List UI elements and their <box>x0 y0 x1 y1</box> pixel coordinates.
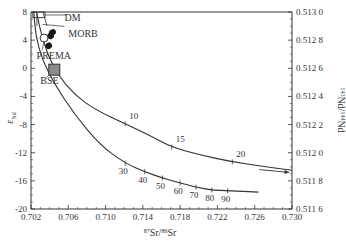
x-tick-label: 0.726 <box>245 212 266 222</box>
y2-tick-label: 0.513 0 <box>296 7 324 17</box>
isotope-mixing-chart: 0.7020.7060.7100.7140.7180.7220.7260.730… <box>0 0 346 242</box>
y-tick-label: -4 <box>20 91 28 101</box>
y2-tick-label: 0.512 6 <box>296 63 324 73</box>
curve-percent-label: 50 <box>156 181 166 191</box>
curve-percent-label: 10 <box>129 111 139 121</box>
y2-tick-label: 0.512 2 <box>296 120 323 130</box>
x-tick-label: 0.722 <box>207 212 227 222</box>
reservoir-label-bse: BSE <box>40 75 58 86</box>
reservoir-label-dm: DM <box>65 12 81 23</box>
x-tick-label: 0.718 <box>170 212 191 222</box>
y2-tick-label: 0.512 4 <box>296 91 324 101</box>
y2-tick-label: 0.512 8 <box>296 35 324 45</box>
y-tick-label: 8 <box>23 7 28 17</box>
x-axis-ticks: 0.7020.7060.7100.7140.7180.7220.7260.730 <box>21 205 303 222</box>
y-tick-label: -20 <box>15 204 27 214</box>
reservoir-label-morb: MORB <box>68 28 98 39</box>
y2-tick-label: 0.512 0 <box>296 148 324 158</box>
y2-tick-label: 0.511 8 <box>296 176 323 186</box>
y2-axis-title: 143Nd/144Nd <box>336 87 346 132</box>
y2-tick-label: 0.511 6 <box>296 204 323 214</box>
y-axis-title: εNd <box>4 112 17 123</box>
prema-leader-line <box>42 42 44 50</box>
plot-frame <box>31 12 292 209</box>
x-axis-title: 87Sr/86Sr <box>144 227 177 238</box>
x-tick-label: 0.714 <box>133 212 154 222</box>
curve-percent-label: 20 <box>236 149 246 159</box>
mixing-curves: 10152030405060708090 <box>34 12 292 204</box>
x-tick-label: 0.706 <box>58 212 79 222</box>
morb-leader-line <box>42 24 64 26</box>
curve-percent-label: 40 <box>138 175 148 185</box>
curve-percent-label: 15 <box>176 134 186 144</box>
y2-axis-ticks: 0.513 00.512 80.512 60.512 40.512 20.512… <box>288 7 324 214</box>
reservoir-label-prema: PREMA <box>37 50 72 61</box>
bse-square-marker <box>49 64 60 75</box>
y-tick-label: -12 <box>15 148 27 158</box>
prema-circle-marker <box>40 34 48 42</box>
curve-percent-label: 70 <box>189 190 199 200</box>
curve-percent-label: 90 <box>221 194 231 204</box>
curve-percent-label: 30 <box>119 166 129 176</box>
y-tick-label: 4 <box>23 35 28 45</box>
curve-percent-label: 60 <box>174 186 184 196</box>
y-tick-label: -8 <box>20 120 28 130</box>
y-axis-ticks: 840-4-8-12-16-20 <box>15 7 35 214</box>
y-tick-label: -16 <box>15 176 27 186</box>
curve-percent-label: 80 <box>205 193 215 203</box>
x-tick-label: 0.710 <box>95 212 116 222</box>
y-tick-label: 0 <box>23 63 28 73</box>
